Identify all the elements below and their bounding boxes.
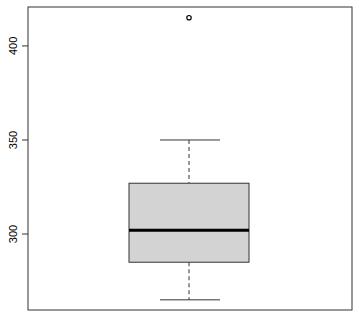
plot-frame — [28, 7, 352, 310]
boxplot-chart: 300350400 — [0, 0, 359, 318]
y-tick-label: 350 — [7, 131, 19, 149]
y-tick-label: 400 — [7, 37, 19, 55]
y-tick-label: 300 — [7, 225, 19, 243]
interquartile-box — [129, 183, 249, 262]
box-group — [129, 16, 249, 300]
y-axis: 300350400 — [7, 37, 28, 243]
outlier-point — [187, 16, 191, 20]
